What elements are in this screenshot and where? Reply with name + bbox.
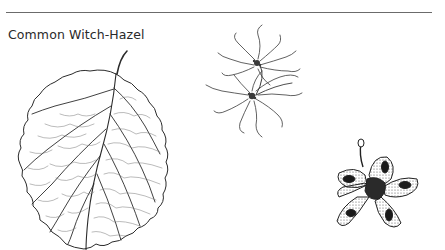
- seed-pod-illustration: [325, 135, 435, 245]
- leaf-illustration: [0, 44, 180, 250]
- flower-illustration: [200, 15, 315, 140]
- page-title: Common Witch-Hazel: [8, 27, 145, 42]
- header-rule: [6, 12, 432, 13]
